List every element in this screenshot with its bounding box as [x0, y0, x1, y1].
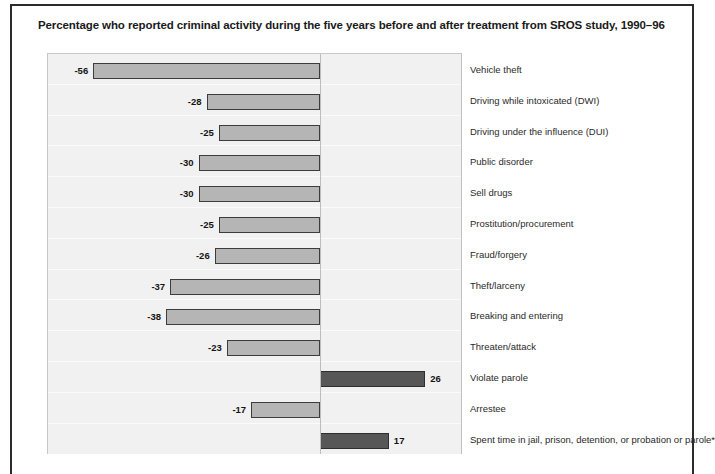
- bar-value-label: 26: [430, 372, 441, 385]
- bar-row: -23: [48, 333, 461, 364]
- bar-value-label: -23: [183, 341, 222, 354]
- bar: [199, 155, 321, 171]
- bar-value-label: -28: [163, 95, 202, 108]
- figure-frame: Percentage who reported criminal activit…: [10, 4, 694, 474]
- bar-value-label: -30: [155, 156, 194, 169]
- category-label: Driving while intoxicated (DWI): [470, 95, 599, 107]
- category-label: Breaking and entering: [470, 310, 563, 322]
- category-label: Vehicle theft: [470, 64, 522, 76]
- bar: [170, 279, 320, 295]
- bar: [166, 309, 320, 325]
- category-label: Threaten/attack: [470, 341, 536, 353]
- bar-value-label: -25: [175, 126, 214, 139]
- bar: [199, 186, 321, 202]
- bar-value-label: -17: [207, 403, 246, 416]
- bar: [207, 94, 320, 110]
- bar: [219, 217, 320, 233]
- bar: [320, 433, 389, 449]
- bar-row: -25: [48, 210, 461, 241]
- bar-row: -30: [48, 179, 461, 210]
- bar-row: -56: [48, 56, 461, 87]
- chart-title: Percentage who reported criminal activit…: [38, 19, 678, 31]
- category-label: Violate parole: [470, 372, 528, 384]
- bar-value-label: -38: [122, 310, 161, 323]
- bar: [219, 125, 320, 141]
- category-label: Fraud/forgery: [470, 249, 527, 261]
- category-label: Spent time in jail, prison, detention, o…: [470, 434, 715, 446]
- bar-row: 26: [48, 364, 461, 395]
- bar-value-label: -26: [171, 249, 210, 262]
- bar-value-label: -25: [175, 218, 214, 231]
- bar-value-label: 17: [394, 434, 405, 447]
- bar-value-label: -30: [155, 187, 194, 200]
- bar-row: -37: [48, 272, 461, 303]
- category-label: Theft/larceny: [470, 280, 525, 292]
- bar-row: -38: [48, 302, 461, 333]
- bar-value-label: -37: [126, 280, 165, 293]
- plot-area: -56-28-25-30-30-25-26-37-38-2326-1717: [47, 53, 462, 454]
- bar: [93, 63, 320, 79]
- category-label: Prostitution/procurement: [470, 218, 574, 230]
- bar: [215, 248, 320, 264]
- category-label: Sell drugs: [470, 187, 512, 199]
- bar-row: -25: [48, 118, 461, 149]
- zero-axis-line: [320, 54, 321, 454]
- category-label: Driving under the influence (DUI): [470, 126, 608, 138]
- category-label: Arrestee: [470, 403, 506, 415]
- category-label-column: Vehicle theftDriving while intoxicated (…: [470, 53, 710, 454]
- bar-row: -26: [48, 241, 461, 272]
- bar: [320, 371, 425, 387]
- bar-value-label: -56: [49, 64, 88, 77]
- bar: [251, 402, 320, 418]
- bar: [227, 340, 320, 356]
- bar-row: 17: [48, 426, 461, 454]
- bar-row: -30: [48, 148, 461, 179]
- bar-row: -17: [48, 395, 461, 426]
- category-label: Public disorder: [470, 156, 533, 168]
- bar-row: -28: [48, 87, 461, 118]
- gridline: [48, 53, 461, 54]
